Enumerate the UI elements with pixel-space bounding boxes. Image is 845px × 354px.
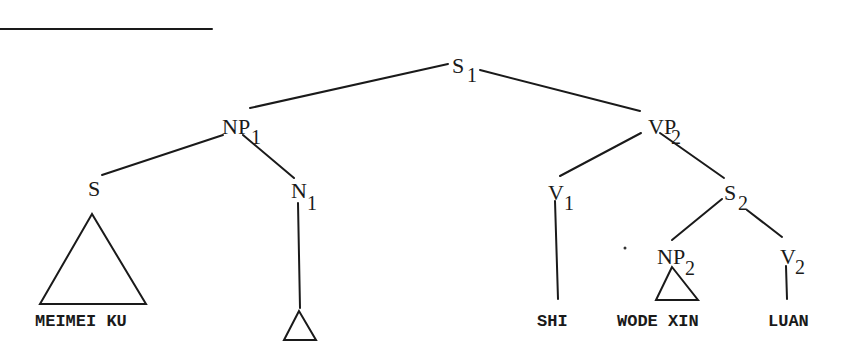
edge-s1-np1-root — [250, 64, 448, 108]
edge-s1-vp2-root — [480, 70, 640, 111]
root-edges-layer — [0, 0, 845, 354]
